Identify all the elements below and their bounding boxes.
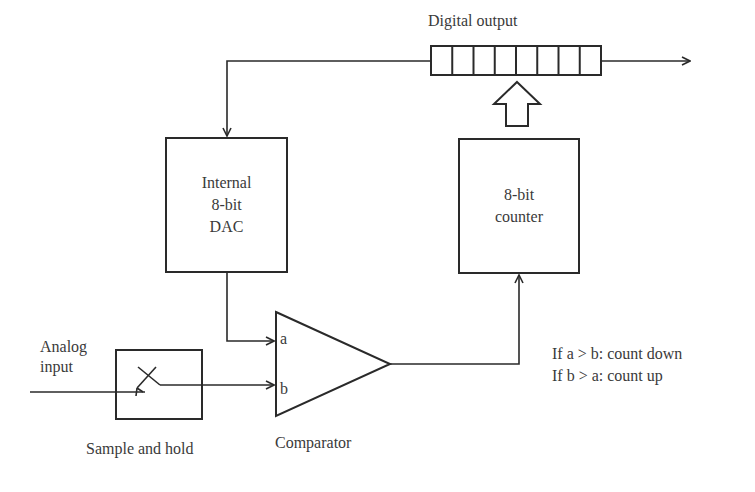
digital-output-register bbox=[431, 46, 601, 75]
adc-diagram bbox=[0, 0, 755, 492]
comparator-input-b: b bbox=[280, 380, 288, 398]
count-rules: If a > b: count down If b > a: count up bbox=[552, 343, 682, 387]
rule-count-down: If a > b: count down bbox=[552, 343, 682, 365]
comparator-label: Comparator bbox=[275, 434, 351, 452]
dac-label-line-1: Internal bbox=[166, 172, 287, 194]
digital-output-label: Digital output bbox=[428, 12, 517, 30]
dac-label-line-3: DAC bbox=[166, 216, 287, 238]
counter-label: 8-bit counter bbox=[459, 184, 579, 228]
analog-input-line-2: input bbox=[40, 357, 87, 377]
comparator-input-a: a bbox=[280, 330, 287, 348]
analog-input-line-1: Analog bbox=[40, 337, 87, 357]
comparator-to-counter-line bbox=[390, 275, 519, 364]
hollow-up-arrow bbox=[494, 82, 540, 126]
dac-label: Internal 8-bit DAC bbox=[166, 172, 287, 238]
rule-count-up: If b > a: count up bbox=[552, 365, 682, 387]
sample-hold-label: Sample and hold bbox=[86, 440, 194, 458]
counter-label-line-1: 8-bit bbox=[459, 184, 579, 206]
analog-input-label: Analog input bbox=[40, 337, 87, 377]
dac-label-line-2: 8-bit bbox=[166, 194, 287, 216]
comparator-triangle bbox=[276, 312, 390, 416]
dac-to-comparator-line bbox=[227, 272, 274, 341]
counter-label-line-2: counter bbox=[459, 206, 579, 228]
feedback-line bbox=[227, 61, 431, 136]
